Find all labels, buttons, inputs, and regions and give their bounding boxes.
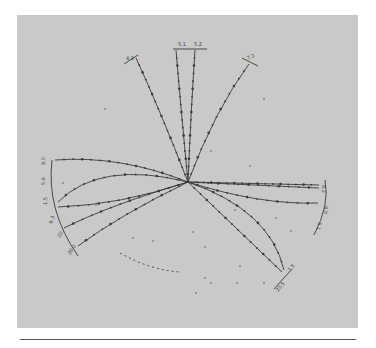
tick-mark: [178, 80, 180, 82]
tick-mark: [237, 229, 239, 231]
tick-mark: [221, 195, 223, 197]
tick-mark: [193, 72, 195, 74]
tick-mark: [170, 175, 172, 177]
tick-mark: [188, 157, 191, 160]
tick-mark: [63, 159, 65, 161]
tick-mark: [250, 241, 252, 243]
ray-group: [55, 50, 319, 272]
tick-mark: [145, 79, 147, 81]
tick-mark: [241, 182, 243, 184]
tick-mark: [157, 108, 159, 110]
tick-mark: [194, 165, 196, 167]
tick-mark: [204, 140, 206, 142]
label-left-5: 20: [56, 230, 64, 239]
tick-mark: [287, 202, 289, 204]
tick-mark: [227, 183, 229, 185]
left-boundary-arc: [51, 160, 78, 256]
tick-mark: [246, 196, 249, 199]
tick-mark: [141, 71, 144, 74]
tick-mark: [184, 174, 186, 176]
stray-mark: [239, 265, 241, 267]
tick-mark: [128, 197, 131, 200]
label-top-right: 7.2: [246, 52, 256, 61]
tick-mark: [99, 160, 101, 162]
stray-mark: [290, 230, 292, 232]
tick-mark: [81, 158, 84, 161]
tick-mark: [272, 183, 274, 185]
ray-left-1: [55, 159, 188, 182]
tick-mark: [124, 173, 127, 176]
label-left-2: 5.6: [40, 177, 46, 185]
tick-mark: [164, 122, 166, 124]
tick-mark: [139, 197, 141, 199]
tick-mark: [72, 222, 75, 225]
tick-mark: [302, 183, 305, 186]
tick-mark: [216, 116, 218, 118]
tick-mark: [182, 127, 184, 129]
tick-mark: [193, 64, 196, 67]
tick-mark: [192, 80, 194, 82]
label-left-1: 9.0: [40, 157, 46, 165]
stray-mark: [104, 108, 106, 110]
tick-mark: [100, 210, 103, 213]
tick-mark: [191, 88, 194, 91]
label-right-1: 8.2: [321, 185, 327, 193]
tick-mark: [224, 217, 227, 220]
tick-mark: [200, 148, 202, 150]
tick-mark: [191, 96, 193, 98]
stray-mark: [132, 237, 134, 239]
tick-mark: [109, 223, 112, 226]
tick-mark: [194, 57, 196, 59]
tick-mark: [154, 101, 156, 103]
tick-mark: [182, 134, 185, 137]
tick-mark: [257, 222, 260, 225]
tick-mark: [281, 260, 283, 262]
radial-diagram: 4.8 5.1 5.2 7.2 9.0 5.6 1.5 6.3 20 20.2 …: [0, 0, 376, 348]
label-bottom-right-1: 7.5: [286, 263, 296, 273]
tick-mark: [238, 183, 240, 185]
tick-mark: [166, 177, 168, 179]
tick-mark: [197, 182, 199, 184]
tick-mark: [266, 199, 268, 201]
tick-mark: [85, 239, 88, 242]
tick-mark: [135, 174, 137, 176]
tick-mark: [93, 234, 95, 236]
tick-mark: [269, 259, 271, 261]
tick-mark: [97, 202, 100, 205]
tick-mark: [243, 70, 245, 72]
tick-mark: [217, 182, 220, 185]
tick-mark: [226, 192, 228, 194]
ray-bottom-right-2: [188, 182, 282, 272]
label-left-3: 1.5: [42, 197, 48, 205]
stray-mark: [204, 277, 206, 279]
tick-mark: [273, 243, 276, 246]
stray-mark: [195, 292, 197, 294]
tick-mark: [190, 111, 193, 114]
tick-mark: [189, 150, 191, 152]
bottom-arc-segment: [120, 253, 180, 272]
tick-mark: [204, 188, 206, 190]
tick-mark: [148, 193, 150, 195]
tick-mark: [185, 157, 188, 160]
stray-mark: [236, 282, 238, 284]
tick-mark: [160, 115, 163, 118]
tick-mark: [151, 93, 154, 96]
tick-mark: [307, 202, 310, 205]
tick-mark: [118, 199, 120, 201]
tick-mark: [180, 104, 182, 106]
tick-mark: [67, 205, 70, 208]
tick-mark: [287, 183, 289, 185]
tick-mark: [308, 186, 311, 189]
tick-mark: [183, 142, 185, 144]
stray-mark: [210, 150, 212, 152]
tick-mark: [181, 119, 183, 121]
tick-mark: [78, 205, 80, 207]
ray-top-right: [188, 64, 249, 182]
tick-mark: [126, 163, 128, 165]
tick-mark: [310, 184, 312, 186]
label-top-b: 5.2: [194, 41, 202, 47]
tick-mark: [176, 64, 179, 67]
stray-mark: [152, 240, 154, 242]
tick-mark: [148, 86, 150, 88]
tick-mark: [90, 159, 92, 161]
